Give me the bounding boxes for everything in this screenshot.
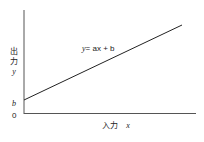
linear-function-line [24, 25, 182, 100]
y-axis-label: 出 力 y [8, 47, 20, 77]
intercept-tick-label: b [12, 99, 16, 108]
y-axis-label-char-1: 出 [8, 47, 20, 57]
origin-tick-label: 0 [12, 111, 16, 120]
equation-label: y= ax + b [82, 44, 114, 53]
x-axis-label: 入力 x [102, 121, 130, 130]
y-axis-variable: y [8, 67, 20, 77]
y-axis-label-char-2: 力 [8, 57, 20, 67]
x-axis-label-text: 入力 [102, 121, 118, 130]
x-axis-variable: x [126, 121, 130, 130]
equation-rest: = ax + b [86, 44, 115, 53]
